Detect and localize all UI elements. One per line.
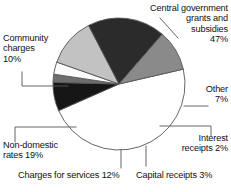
label-charges-for-services: Charges for services 12% [18, 170, 143, 180]
label-non-domestic-rates: Non-domestic rates 19% [3, 140, 88, 161]
label-capital-receipts: Capital receipts 3% [136, 170, 231, 180]
label-central-government-grants: Central government grants and subsidies … [118, 3, 228, 45]
label-other: Other 7% [178, 84, 228, 105]
label-interest-receipts: Interest receipts 2% [150, 133, 228, 154]
label-community-charges: Community charges 10% [3, 33, 83, 64]
pie-chart: Central government grants and subsidies … [0, 0, 231, 192]
